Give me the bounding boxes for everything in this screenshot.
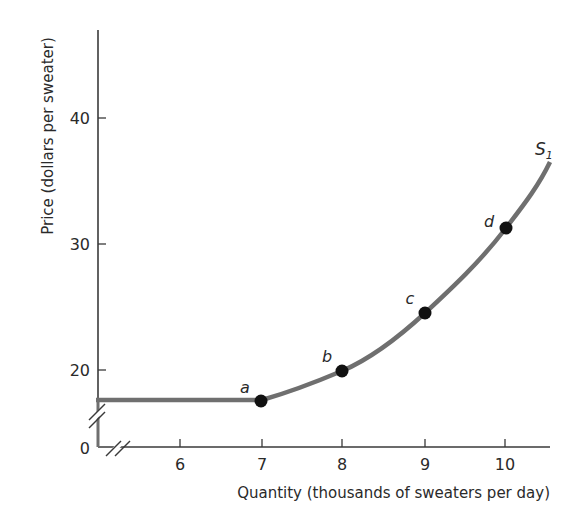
y-tick-label-0: 0: [80, 439, 90, 458]
point-label-a: a: [240, 378, 250, 397]
point-b: [336, 365, 349, 378]
x-tick-label-9: 9: [420, 455, 430, 474]
x-axis-break-icon: [106, 436, 130, 456]
x-tick-label-10: 10: [495, 455, 515, 474]
x-axis-title: Quantity (thousands of sweaters per day): [237, 484, 550, 502]
series-label-s1: S1: [535, 139, 553, 162]
x-tick-label-6: 6: [175, 455, 185, 474]
supply-curve-chart: Price (dollars per sweater) 40 30 20 0 6…: [0, 0, 584, 518]
y-tick-label-30: 30: [70, 235, 90, 254]
point-label-b: b: [322, 347, 332, 366]
point-label-d: d: [484, 212, 495, 231]
y-axis-title: Price (dollars per sweater): [39, 37, 57, 235]
series-label-subscript: 1: [546, 149, 553, 162]
y-tick-label-20: 20: [70, 361, 90, 380]
point-a: [255, 395, 268, 408]
x-tick-label-7: 7: [257, 455, 267, 474]
point-d: [500, 222, 513, 235]
point-label-c: c: [406, 289, 415, 308]
series-label-s: S: [535, 139, 546, 159]
x-tick-label-8: 8: [337, 455, 347, 474]
point-c: [419, 307, 432, 320]
y-tick-label-40: 40: [70, 109, 90, 128]
